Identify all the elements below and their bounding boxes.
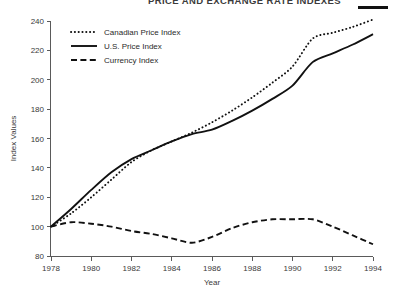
y-tick-label: 140: [31, 164, 45, 173]
x-tick-label: 1992: [324, 264, 342, 273]
y-tick-label: 80: [35, 252, 44, 261]
x-axis-title: Year: [204, 278, 221, 287]
y-tick-label: 160: [31, 135, 45, 144]
x-tick-label: 1978: [42, 264, 60, 273]
y-tick-label: 200: [31, 76, 45, 85]
chart-legend: Canadian Price IndexU.S. Price IndexCurr…: [71, 28, 181, 65]
chart-figure: PRICE AND EXCHANGE RATE INDEXES 80100120…: [0, 0, 396, 299]
x-tick-label: 1982: [123, 264, 141, 273]
legend-item-label: Canadian Price Index: [104, 28, 181, 37]
x-tick-label: 1988: [243, 264, 261, 273]
series-lines: [51, 20, 373, 245]
x-tick-label: 1994: [364, 264, 382, 273]
y-axis-title: Index Values: [9, 116, 18, 162]
y-tick-label: 220: [31, 46, 45, 55]
y-tick-label: 180: [31, 105, 45, 114]
y-tick-label: 100: [31, 223, 45, 232]
y-tick-label: 120: [31, 193, 45, 202]
series-dashed: [51, 219, 373, 244]
x-tick-label: 1980: [82, 264, 100, 273]
x-tick-label: 1990: [284, 264, 302, 273]
legend-item-label: Currency Index: [104, 56, 158, 65]
y-tick-label: 240: [31, 17, 45, 26]
series-dotted: [51, 20, 373, 227]
series-solid: [51, 34, 373, 226]
line-chart-plot: 8010012014016018020022024019781980198219…: [0, 0, 396, 299]
x-tick-label: 1984: [163, 264, 181, 273]
legend-item-label: U.S. Price Index: [104, 42, 162, 51]
axes: 8010012014016018020022024019781980198219…: [9, 17, 382, 287]
x-tick-label: 1986: [203, 264, 221, 273]
